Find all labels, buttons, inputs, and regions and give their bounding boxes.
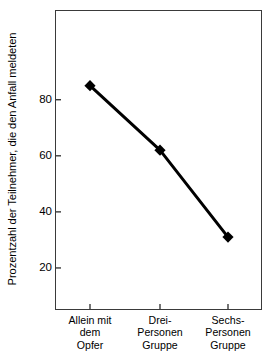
x-axis-tick-label: Sechs-PersonenGruppe <box>188 314 268 351</box>
chart-plot-svg <box>55 10 262 310</box>
x-axis-tick-label-line: Personen <box>188 326 268 338</box>
x-axis-tick-label-line: Opfer <box>50 339 130 351</box>
x-axis-tick-label-line: Allein mit <box>50 314 130 326</box>
y-axis-tick-label: 40 <box>28 206 52 218</box>
y-axis-title: Prozentzahl der Teilnehmer, die den Anfa… <box>7 33 18 286</box>
x-axis-tick-labels: Allein mitdemOpferDrei-PersonenGruppeSec… <box>0 314 273 357</box>
x-axis-tick-label-line: Gruppe <box>188 339 268 351</box>
y-axis-tick-label: 80 <box>28 94 52 106</box>
chart-figure: Prozentzahl der Teilnehmer, die den Anfa… <box>0 0 273 357</box>
y-axis-title-container: Prozentzahl der Teilnehmer, die den Anfa… <box>0 0 26 318</box>
y-axis-tick-label: 60 <box>28 150 52 162</box>
x-axis-tick-label: Allein mitdemOpfer <box>50 314 130 351</box>
series-line <box>90 86 228 237</box>
x-axis-tick-label-line: Sechs- <box>188 314 268 326</box>
x-axis-tick-label-line: dem <box>50 326 130 338</box>
y-axis-tick-label: 20 <box>28 262 52 274</box>
y-axis-tick-labels: 20406080 <box>26 0 52 357</box>
